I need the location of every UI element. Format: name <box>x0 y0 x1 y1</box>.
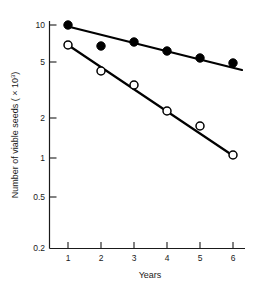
data-point-filled-3 <box>130 38 138 46</box>
data-point-open-2 <box>97 67 105 75</box>
y-axis-title-close: ) <box>10 72 20 75</box>
x-tick-label-2: 2 <box>99 253 104 263</box>
x-tick-label-6: 6 <box>231 253 236 263</box>
x-axis-ticks <box>68 242 233 249</box>
y-axis-title: Number of viable seeds ( × 103) <box>10 72 20 199</box>
y-axis-ticks <box>50 25 57 197</box>
chart-figure: 10 5 2 1 0.5 0.2 1 2 3 4 5 6 Years <box>0 0 258 286</box>
trend-line-open-series <box>65 43 235 157</box>
y-axis-tick-labels: 10 5 2 1 0.5 0.2 <box>33 20 45 253</box>
chart-plot-area: 10 5 2 1 0.5 0.2 1 2 3 4 5 6 Years <box>0 0 258 286</box>
x-tick-label-5: 5 <box>198 253 203 263</box>
data-point-filled-2 <box>97 42 105 50</box>
y-tick-label-0point2: 0.2 <box>33 243 45 253</box>
data-point-filled-4 <box>163 47 171 55</box>
y-tick-label-2: 2 <box>40 113 45 123</box>
data-point-open-4 <box>163 107 171 115</box>
y-tick-label-10: 10 <box>36 20 46 30</box>
data-point-open-3 <box>130 81 138 89</box>
svg-text:Number of viable seeds ( × 103: Number of viable seeds ( × 103) <box>10 72 20 199</box>
data-point-filled-6 <box>229 59 237 67</box>
x-axis-title: Years <box>139 270 162 280</box>
x-tick-label-1: 1 <box>66 253 71 263</box>
data-point-open-1 <box>64 41 72 49</box>
y-tick-label-5: 5 <box>40 57 45 67</box>
x-tick-label-4: 4 <box>165 253 170 263</box>
data-point-filled-1 <box>64 21 72 29</box>
x-axis-tick-labels: 1 2 3 4 5 6 <box>66 253 236 263</box>
y-tick-label-1: 1 <box>40 153 45 163</box>
y-tick-label-0point5: 0.5 <box>33 192 45 202</box>
data-point-open-6 <box>229 151 237 159</box>
data-point-filled-5 <box>196 54 204 62</box>
x-tick-label-3: 3 <box>132 253 137 263</box>
data-point-open-5 <box>196 122 204 130</box>
y-axis-title-main: Number of viable seeds ( × 10 <box>10 78 20 198</box>
